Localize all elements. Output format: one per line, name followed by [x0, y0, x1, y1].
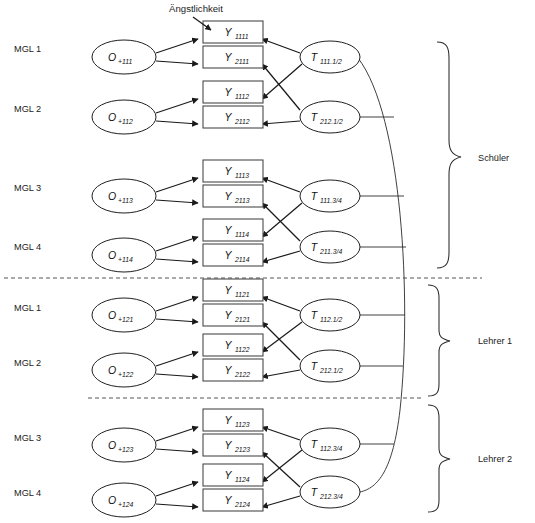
- trait-node: T211.3/4: [300, 231, 360, 263]
- indicator-node: Y2124: [203, 489, 263, 511]
- indicator-label: Y: [224, 284, 232, 296]
- observer-ellipse: [92, 100, 156, 134]
- indicator-box: [203, 434, 263, 456]
- trait-node: T112.1/2: [300, 299, 360, 331]
- trait-ellipse: [300, 41, 360, 73]
- trait-subscript: 212.1/2: [319, 118, 343, 125]
- indicator-box: [203, 21, 263, 43]
- indicator-subscript: 2114: [234, 256, 250, 263]
- indicator-box: [203, 489, 263, 511]
- mgl-row-labels: MGL 1MGL 2MGL 3MGL 4MGL 1MGL 2MGL 3MGL 4: [14, 44, 41, 498]
- caption-label: Ängstlichkeit: [169, 3, 223, 14]
- figure-canvas: Y1111Y2111Y1112Y2112Y1113Y2113Y1114Y2114…: [0, 0, 535, 523]
- indicator-node: Y1113: [203, 160, 263, 182]
- indicator-subscript: 1111: [235, 33, 249, 40]
- trait-node: T212.1/2: [300, 101, 360, 133]
- trait-ellipse: [300, 476, 360, 508]
- observer-subscript: +111: [118, 58, 133, 65]
- group-braces: [428, 42, 461, 512]
- indicator-label: Y: [224, 439, 232, 451]
- indicator-box: [203, 46, 263, 68]
- indicator-subscript: 1123: [235, 421, 250, 428]
- indicator-label: Y: [224, 86, 232, 98]
- indicator-node: Y2114: [203, 244, 263, 266]
- observer-label: O: [108, 51, 116, 63]
- observer-ellipse: [92, 40, 156, 74]
- indicator-subscript: 2111: [234, 58, 249, 65]
- observer-label: O: [108, 364, 116, 376]
- indicator-subscript: 2121: [234, 316, 250, 323]
- observer-subscript: +112: [118, 118, 133, 125]
- indicator-node: Y2121: [203, 304, 263, 326]
- trait-subscript: 112.1/2: [320, 316, 342, 323]
- indicator-box: [203, 106, 263, 128]
- observer-ellipse: [92, 238, 156, 272]
- observer-label: O: [108, 309, 116, 321]
- trait-ellipse: [300, 428, 360, 460]
- observer-ellipse: [92, 428, 156, 462]
- group-label: Lehrer 1: [478, 336, 512, 346]
- trait-to-indicator-edges: [262, 39, 302, 507]
- mgl-row-label: MGL 1: [14, 303, 41, 313]
- observer-ellipse: [92, 179, 156, 213]
- indicator-box: [203, 160, 263, 182]
- observer-label: O: [108, 439, 116, 451]
- indicator-node: Y1123: [203, 409, 263, 431]
- mgl-row-label: MGL 3: [14, 183, 41, 193]
- indicator-node: Y2111: [203, 46, 263, 68]
- indicator-label: Y: [224, 190, 232, 202]
- indicator-box: [203, 334, 263, 356]
- mgl-row-label: MGL 2: [14, 358, 41, 368]
- indicator-label: Y: [224, 309, 232, 321]
- trait-subscript: 111.3/4: [320, 197, 342, 204]
- indicator-box: [203, 279, 263, 301]
- observer-node: O+121: [92, 298, 156, 332]
- indicator-subscript: 2113: [234, 197, 250, 204]
- observer-label: O: [108, 111, 116, 123]
- mgl-row-label: MGL 4: [14, 488, 41, 498]
- indicator-subscript: 2122: [234, 371, 250, 378]
- brace-schueler: [437, 42, 461, 268]
- indicator-node: Y1124: [203, 464, 263, 486]
- trait-node: T112.3/4: [300, 428, 360, 460]
- group-label-texts: SchülerLehrer 1Lehrer 2: [478, 153, 512, 464]
- indicator-node: Y2122: [203, 359, 263, 381]
- indicator-subscript: 2112: [234, 118, 250, 125]
- trait-subscript: 212.1/2: [319, 367, 343, 374]
- mgl-row-label: MGL 2: [14, 104, 41, 114]
- indicator-label: Y: [224, 26, 232, 38]
- indicator-node: Y2123: [203, 434, 263, 456]
- indicator-label: Y: [224, 494, 232, 506]
- indicator-subscript: 1122: [235, 346, 250, 353]
- mgl-row-label: MGL 4: [14, 242, 41, 252]
- trait-nodes: T111.1/2T212.1/2T111.3/4T211.3/4T112.1/2…: [300, 41, 360, 508]
- observer-label: O: [108, 249, 116, 261]
- trait-node: T212.3/4: [300, 476, 360, 508]
- indicator-node: Y2113: [203, 185, 263, 207]
- observer-subscript: +122: [118, 371, 134, 378]
- indicator-node: Y1122: [203, 334, 263, 356]
- trait-ellipse: [300, 180, 360, 212]
- indicator-box: [203, 185, 263, 207]
- indicator-subscript: 1121: [235, 291, 250, 298]
- trait-ellipse: [300, 101, 360, 133]
- indicator-subscript: 1113: [235, 172, 249, 179]
- indicator-node: Y1112: [203, 81, 263, 103]
- brace-lehrer2: [428, 405, 450, 512]
- trait-ellipse: [300, 299, 360, 331]
- trait-node: T111.1/2: [300, 41, 360, 73]
- indicator-subscript: 1124: [235, 476, 250, 483]
- observer-node: O+113: [92, 179, 156, 213]
- indicator-subscript: 1112: [235, 93, 249, 100]
- covariance-arc: [358, 58, 405, 492]
- observer-subscript: +121: [118, 316, 134, 323]
- indicator-box: [203, 359, 263, 381]
- indicator-label: Y: [224, 111, 232, 123]
- trait-ellipse: [300, 350, 360, 382]
- indicator-box: [203, 304, 263, 326]
- observer-node: O+111: [92, 40, 156, 74]
- group-label: Lehrer 2: [478, 454, 512, 464]
- indicator-subscript: 1114: [235, 231, 249, 238]
- indicator-box: [203, 409, 263, 431]
- observer-node: O+112: [92, 100, 156, 134]
